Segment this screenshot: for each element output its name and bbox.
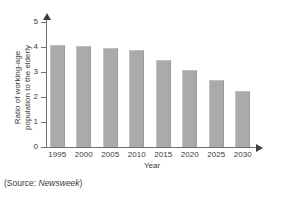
bar: [76, 46, 91, 147]
bar: [103, 48, 118, 147]
bar: [209, 80, 224, 148]
bar: [50, 45, 65, 148]
x-axis-line: [46, 147, 257, 148]
source-prefix: (Source:: [4, 178, 39, 188]
x-axis-title: Year: [46, 161, 258, 170]
y-axis-title-line-1: Ratio of working-age: [13, 18, 23, 158]
source-suffix: ): [80, 178, 83, 188]
y-axis-title-line-2: population to the elderly: [22, 18, 32, 158]
y-axis-tick: [41, 147, 46, 148]
plot-area: [46, 22, 258, 147]
source-attribution: (Source: Newsweek): [4, 178, 82, 188]
bar: [156, 60, 171, 148]
y-axis-title: Ratio of working-age population to the e…: [13, 18, 32, 158]
bar: [129, 50, 144, 148]
bar: [235, 91, 250, 147]
source-publication: Newsweek: [39, 178, 80, 188]
x-axis-tick-label: 2030: [226, 150, 260, 159]
bar: [182, 70, 197, 148]
y-axis-arrow-icon: [43, 13, 51, 20]
bar-chart-figure: 012345 19952000200520102015202020252030 …: [0, 0, 282, 197]
